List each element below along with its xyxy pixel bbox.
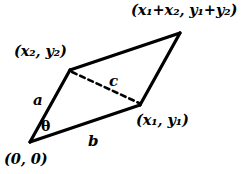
- parallelogram-figure: (x₁+x₂, y₁+y₂) (x₂, y₂) (x₁, y₁) (0, 0) …: [0, 0, 244, 174]
- label-sum-vertex: (x₁+x₂, y₁+y₂): [131, 3, 237, 18]
- label-vector2-vertex: (x₂, y₂): [14, 44, 67, 59]
- label-side-b: b: [88, 134, 99, 149]
- parallelogram-drawing: [0, 0, 244, 174]
- label-angle-theta: θ: [41, 119, 50, 133]
- label-origin-vertex: (0, 0): [4, 152, 47, 167]
- label-diagonal-c: c: [109, 74, 118, 89]
- label-side-a: a: [33, 93, 43, 108]
- diagonal-c-line: [72, 72, 139, 103]
- label-vector1-vertex: (x₁, y₁): [136, 113, 189, 128]
